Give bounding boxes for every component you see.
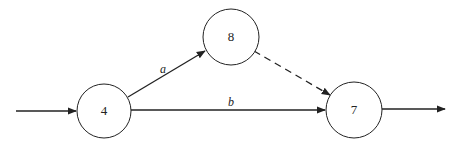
- network-diagram: a b 4 8 7: [0, 0, 456, 150]
- edge-a-arrow: [128, 51, 205, 97]
- node-7: 7: [326, 82, 382, 138]
- edge-a-label: a: [160, 62, 166, 76]
- node-8: 8: [203, 9, 259, 65]
- node-8-label: 8: [228, 29, 235, 44]
- dummy-edge-dashed-arrow: [254, 51, 330, 95]
- node-4: 4: [77, 84, 131, 138]
- node-7-label: 7: [351, 102, 358, 117]
- node-4-label: 4: [101, 103, 108, 118]
- edge-b-label: b: [228, 95, 234, 109]
